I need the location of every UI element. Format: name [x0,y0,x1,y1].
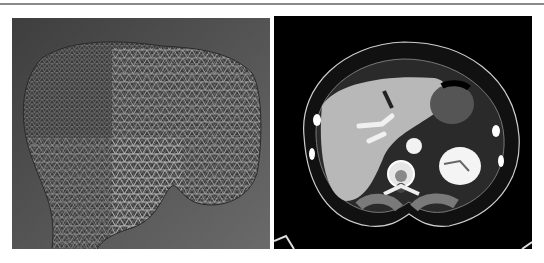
top-rule [0,3,544,5]
abdominal-ct-graphic [274,16,532,249]
ct-scan-image [274,16,532,249]
bone-mesh-graphic [12,18,270,249]
wireframe-mesh-image [12,18,270,249]
